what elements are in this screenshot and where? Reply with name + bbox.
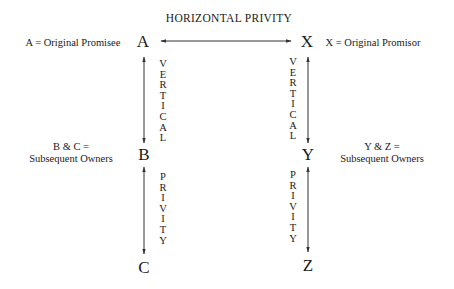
label-line: Subsequent Owners (327, 153, 437, 165)
label-x-original-promisor: X = Original Promisor (318, 37, 428, 49)
node-z: Z (298, 257, 318, 274)
node-a: A (133, 33, 153, 50)
letter: L (157, 133, 169, 144)
label-y-z-subsequent-owners: Y & Z = Subsequent Owners (327, 141, 437, 165)
node-c: C (134, 259, 154, 276)
label-line: Y & Z = (327, 141, 437, 153)
right-vertical-word-privity: P R I V I T Y (287, 170, 299, 244)
node-b: B (134, 146, 154, 163)
letter: P (287, 170, 299, 181)
letter: C (157, 112, 169, 123)
node-x: X (297, 33, 317, 50)
node-y: Y (298, 146, 318, 163)
horizontal-privity-title: HORIZONTAL PRIVITY (0, 12, 454, 24)
right-vertical-word-vertical: V E R T I C A L (287, 57, 299, 142)
label-a-original-promisee: A = Original Promisee (18, 37, 128, 49)
letter: V (287, 57, 299, 68)
letter: L (287, 131, 299, 142)
letter: T (287, 223, 299, 234)
label-line: Subsequent Owners (16, 153, 126, 165)
letter: Y (157, 236, 169, 247)
left-vertical-word-privity: P R I V I T Y (157, 172, 169, 246)
letter: T (157, 225, 169, 236)
label-line: B & C = (16, 141, 126, 153)
letter: Y (287, 234, 299, 245)
left-vertical-word-vertical: V E R T I C A L (157, 59, 169, 144)
letter: V (157, 59, 169, 70)
letter: C (287, 110, 299, 121)
label-b-c-subsequent-owners: B & C = Subsequent Owners (16, 141, 126, 165)
letter: P (157, 172, 169, 183)
